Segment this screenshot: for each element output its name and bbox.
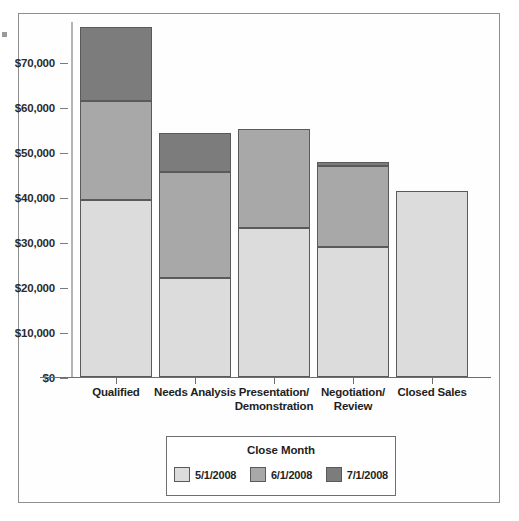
category-axis-tick-mark: [353, 377, 354, 384]
legend-title: Close Month: [167, 444, 395, 456]
y-axis-tick-20000: $20,000: [0, 281, 71, 295]
category-axis-tick-mark: [274, 377, 275, 384]
y-axis-tick-40000: $40,000: [0, 191, 71, 205]
category-axis-tick-mark: [432, 377, 433, 384]
stacked-bar-chart: $70,000 $60,000 $50,000 $40,000 $30,000 …: [0, 0, 519, 521]
legend-item-label: 5/1/2008: [195, 469, 236, 481]
y-axis-tick-mark: [60, 153, 68, 154]
y-axis-tick-label: $30,000: [15, 236, 55, 250]
legend-item[interactable]: 5/1/2008: [174, 467, 236, 482]
legend-item[interactable]: 7/1/2008: [326, 467, 388, 482]
bar-segment[interactable]: [159, 278, 231, 377]
bar-group[interactable]: [238, 0, 310, 377]
bar-segment[interactable]: [317, 162, 389, 166]
bar-segment[interactable]: [80, 27, 152, 101]
y-axis-tick-70000: $70,000: [0, 56, 71, 70]
bar-segment[interactable]: [80, 200, 152, 377]
y-axis-tick-label: $70,000: [15, 56, 55, 70]
y-axis-tick-mark: [60, 63, 68, 64]
bar-segment[interactable]: [317, 166, 389, 247]
y-axis-tick-label: $60,000: [15, 101, 55, 115]
y-axis-tick-label: $20,000: [15, 281, 55, 295]
value-axis: $70,000 $60,000 $50,000 $40,000 $30,000 …: [0, 0, 71, 521]
category-axis-label: Closed Sales: [382, 386, 482, 400]
y-axis-tick-10000: $10,000: [0, 326, 71, 340]
y-axis-tick-0: $0: [0, 371, 71, 385]
bar-group[interactable]: [317, 0, 389, 377]
bar-segment[interactable]: [317, 247, 389, 377]
y-axis-tick-mark: [60, 333, 68, 334]
y-axis-tick-50000: $50,000: [0, 146, 71, 160]
y-axis-tick-mark: [60, 243, 68, 244]
y-axis-tick-mark: [60, 108, 68, 109]
legend-swatch-icon: [250, 467, 266, 482]
y-axis-tick-label: $10,000: [15, 326, 55, 340]
bar-segment[interactable]: [159, 133, 231, 171]
legend-items: 5/1/20086/1/20087/1/2008: [174, 467, 388, 482]
bar-segment[interactable]: [238, 129, 310, 228]
legend-item-label: 6/1/2008: [271, 469, 312, 481]
y-axis-tick-label: $40,000: [15, 191, 55, 205]
category-axis-label-line: Review: [303, 400, 403, 414]
value-axis-line: [71, 22, 73, 378]
legend: Close Month 5/1/20086/1/20087/1/2008: [166, 436, 396, 496]
bar-group[interactable]: [80, 0, 152, 377]
bar-segment[interactable]: [238, 228, 310, 377]
bar-segment[interactable]: [159, 172, 231, 279]
y-axis-tick-mark: [60, 288, 68, 289]
y-axis-tick-label: $50,000: [15, 146, 55, 160]
legend-item[interactable]: 6/1/2008: [250, 467, 312, 482]
bar-group[interactable]: [159, 0, 231, 377]
category-axis-tick-mark: [116, 377, 117, 384]
y-axis-tick-60000: $60,000: [0, 101, 71, 115]
category-axis-label-line: Closed Sales: [382, 386, 482, 400]
legend-swatch-icon: [174, 467, 190, 482]
legend-swatch-icon: [326, 467, 342, 482]
y-axis-tick-30000: $30,000: [0, 236, 71, 250]
bar-segment[interactable]: [80, 101, 152, 200]
y-axis-tick-mark: [60, 198, 68, 199]
bar-group[interactable]: [396, 0, 468, 377]
category-axis-line: [40, 377, 491, 378]
y-axis-tick-label: $0: [43, 371, 55, 385]
legend-item-label: 7/1/2008: [347, 469, 388, 481]
bar-segment[interactable]: [396, 191, 468, 377]
category-axis-tick-mark: [195, 377, 196, 384]
